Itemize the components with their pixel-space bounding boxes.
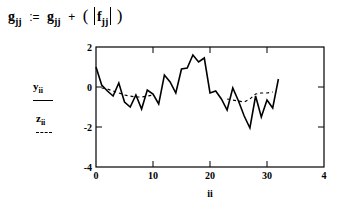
series-z-ii-line bbox=[227, 92, 273, 102]
x-tick-label: 30 bbox=[262, 170, 272, 181]
legend-z: zii bbox=[36, 112, 45, 124]
x-tick-label: 4 bbox=[322, 170, 327, 181]
y-tick-label: 2 bbox=[87, 42, 92, 53]
legend-y-label: y bbox=[33, 80, 39, 92]
y-tick-label: -4 bbox=[84, 162, 92, 173]
legend-y-line-sample bbox=[33, 100, 53, 101]
series-y-ii-line bbox=[96, 55, 278, 128]
x-tick-label: 10 bbox=[148, 170, 158, 181]
legend-y-sub: ii bbox=[39, 86, 43, 95]
x-tick-label: 20 bbox=[205, 170, 215, 181]
x-axis-label: ii bbox=[207, 188, 213, 199]
y-tick-label: -2 bbox=[84, 122, 92, 133]
legend-z-sub: ii bbox=[41, 118, 45, 127]
legend-z-line-sample bbox=[36, 132, 52, 134]
y-tick-label: 0 bbox=[87, 82, 92, 93]
plot-region[interactable]: 0102030420-2-4ii bbox=[0, 0, 349, 209]
x-tick-label: 0 bbox=[94, 170, 99, 181]
legend-y: yii bbox=[33, 80, 43, 92]
